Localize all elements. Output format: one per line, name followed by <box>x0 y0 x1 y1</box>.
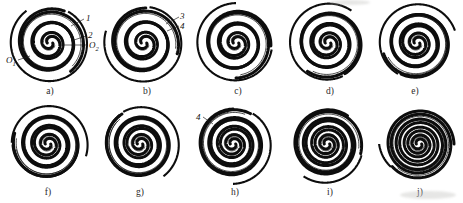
callout-label-o1: O1 <box>6 55 16 67</box>
callout-text: 4 <box>180 21 185 31</box>
spiral-panel-c <box>197 3 271 80</box>
callout-text: 2 <box>88 30 93 40</box>
spiral-panel-j <box>379 111 454 178</box>
panel-caption-d: d) <box>326 86 334 96</box>
panel-caption-g: g) <box>136 187 144 197</box>
spiral-panel-d <box>290 4 361 80</box>
callout-label-four_h: 4 <box>196 112 201 122</box>
panel-caption-b: b) <box>143 86 151 96</box>
figure-canvas <box>0 0 463 203</box>
spiral-panel-h <box>200 109 271 184</box>
callout-text: 1 <box>86 13 91 23</box>
callout-subscript: 1 <box>13 60 16 67</box>
spiral-panel-b <box>104 7 181 81</box>
callout-subscript: 2 <box>96 45 99 52</box>
callout-label-four: 4 <box>180 21 185 31</box>
spiral-panel-f <box>12 106 88 176</box>
callout-label-o2: O2 <box>89 40 99 52</box>
panel-caption-a: a) <box>46 86 53 96</box>
spiral-panel-i <box>295 110 362 183</box>
callout-label-two: 2 <box>88 30 93 40</box>
panel-caption-h: h) <box>231 187 239 197</box>
panel-caption-c: c) <box>234 86 241 96</box>
callout-label-one: 1 <box>86 13 91 23</box>
spiral-panel-e <box>380 4 455 77</box>
callout-label-three: 3 <box>180 11 185 21</box>
spiral-panel-g <box>106 107 178 176</box>
figure-double-spiral-panels: a)b)c)d)e)f)g)h)i)j) 12O2O1344 <box>0 0 463 203</box>
panel-caption-f: f) <box>45 187 51 197</box>
callout-text: 4 <box>196 112 201 122</box>
panel-caption-j: j) <box>417 187 423 197</box>
panel-caption-i: i) <box>327 187 333 197</box>
callout-text: 3 <box>180 11 185 21</box>
panel-caption-e: e) <box>411 86 418 96</box>
